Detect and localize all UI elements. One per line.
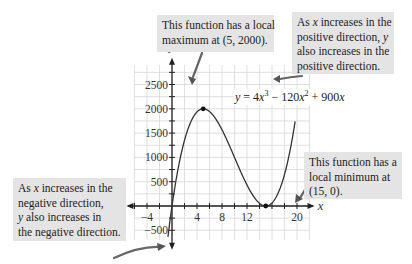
equation-label: y = 4x3 − 120x2 + 900x [233, 89, 347, 105]
text: increases in the [39, 182, 113, 194]
eq-x: x [339, 90, 344, 104]
extremum-point [201, 106, 206, 111]
y-tick-label: 1500 [145, 127, 168, 139]
text: increases in the [318, 16, 392, 28]
text: As [297, 16, 313, 28]
x-axis-label: x [317, 199, 324, 213]
y-tick-label: 2500 [145, 79, 168, 91]
x-tick-label: −4 [141, 211, 153, 223]
text: As [18, 182, 34, 194]
callout-line: the negative direction. [18, 225, 121, 240]
y-tick-label: 1000 [145, 151, 168, 163]
extremum-point [263, 204, 268, 209]
callout-line: positive direction, y [297, 30, 389, 45]
callout-line: (15, 0). [309, 184, 397, 199]
eq-part: + 900 [309, 90, 340, 104]
eq-part: − 120 [268, 90, 299, 104]
x-tick-label: 8 [219, 211, 225, 223]
callout-line: positive direction. [297, 59, 389, 74]
callout-local-minimum: This function has a local minimum at (15… [304, 152, 402, 199]
y-tick-label: −500 [144, 224, 168, 236]
callout-positive-direction: As x increases in the positive direction… [292, 12, 394, 74]
callout-line: As x increases in the [18, 181, 121, 196]
x-tick-label: 12 [241, 211, 253, 223]
function-curve [168, 109, 295, 237]
callout-line: This function has a [309, 155, 397, 170]
eq-part: = 4 [240, 90, 259, 104]
callout-line: As x increases in the [297, 15, 389, 30]
x-tick-label: 4 [194, 211, 200, 223]
text: also increases in [23, 211, 101, 223]
callout-line: maximum at (5, 2000). [162, 33, 269, 48]
y-tick-label: 2000 [145, 103, 168, 115]
callout-line: This function has a local [162, 18, 269, 33]
callout-line: negative direction, [18, 196, 121, 211]
x-tick-label: 20 [291, 211, 303, 223]
callout-line: local minimum at [309, 170, 397, 185]
var: y [383, 31, 388, 43]
callout-negative-direction: As x increases in the negative direction… [13, 178, 126, 241]
text: positive direction, [297, 31, 383, 43]
callout-line: also increases in the [297, 44, 389, 59]
y-tick-label: 500 [151, 176, 169, 188]
callout-line: y also increases in [18, 210, 121, 225]
callout-local-maximum: This function has a local maximum at (5,… [157, 15, 274, 52]
